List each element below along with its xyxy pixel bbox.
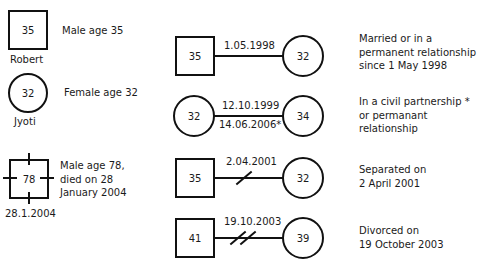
male-name: Robert: [10, 53, 43, 67]
deceased-date: 28.1.2004: [5, 207, 56, 221]
divorced-male-symbol: 41: [175, 218, 215, 258]
female-description: Female age 32: [64, 86, 138, 100]
married-date: 1.05.1998: [224, 40, 275, 51]
married-line: [214, 55, 284, 57]
separated-female-symbol: 32: [282, 157, 324, 199]
cross-tick-top: [28, 153, 30, 165]
civil-partnership-line: [214, 115, 284, 117]
civil-partner-right-symbol: 34: [282, 95, 324, 137]
cross-tick-bottom: [28, 192, 30, 204]
cross-tick-left: [3, 177, 17, 179]
female-name: Jyoti: [14, 115, 36, 129]
male-age: 35: [22, 25, 35, 36]
deceased-description: Male age 78, died on 28 January 2004: [60, 159, 127, 200]
civil-partnership-end-date: 14.06.2006*: [219, 119, 281, 130]
cross-tick-right: [40, 177, 54, 179]
female-age: 32: [22, 88, 35, 99]
married-description: Married or in a permanent relationship s…: [359, 32, 476, 73]
separated-date: 2.04.2001: [226, 156, 277, 167]
civil-partnership-description: In a civil partnership * or permanant re…: [359, 95, 470, 136]
divorced-female-symbol: 39: [282, 217, 324, 259]
separated-line: [214, 177, 284, 179]
deceased-age: 78: [23, 174, 36, 185]
married-female-symbol: 32: [282, 35, 324, 77]
married-male-symbol: 35: [175, 36, 215, 76]
female-symbol: 32: [8, 73, 48, 113]
male-symbol: 35: [8, 10, 48, 50]
separated-description: Separated on 2 April 2001: [359, 163, 426, 190]
separated-male-symbol: 35: [175, 158, 215, 198]
male-description: Male age 35: [62, 24, 123, 38]
divorced-date: 19.10.2003: [224, 216, 281, 227]
civil-partnership-start-date: 12.10.1999: [222, 100, 279, 111]
civil-partner-left-symbol: 32: [173, 95, 215, 137]
divorced-description: Divorced on 19 October 2003: [359, 224, 444, 251]
